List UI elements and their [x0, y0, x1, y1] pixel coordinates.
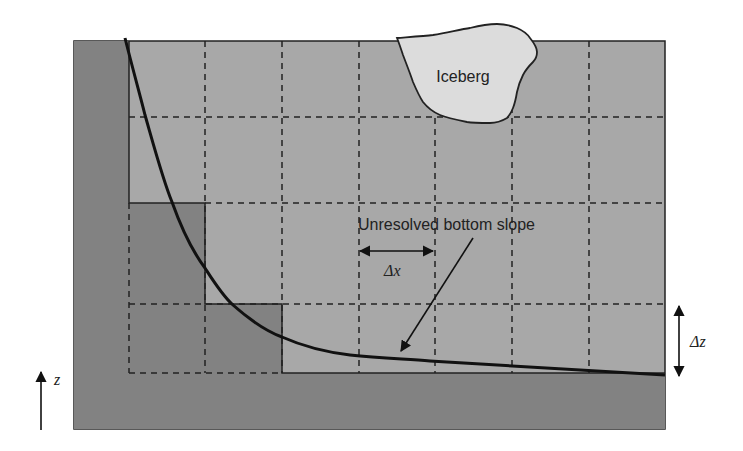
- z-axis-label: z: [53, 371, 61, 388]
- ocean-grid-diagram: Iceberg Unresolved bottom slope Δx Δz z: [0, 0, 743, 451]
- terrain-step-1: [129, 203, 205, 373]
- dz-label: Δz: [689, 333, 706, 350]
- slope-label: Unresolved bottom slope: [358, 216, 535, 233]
- dx-label: Δx: [383, 262, 401, 279]
- bottom-floor: [74, 373, 665, 429]
- iceberg-label: Iceberg: [436, 68, 489, 85]
- left-wall: [74, 41, 129, 429]
